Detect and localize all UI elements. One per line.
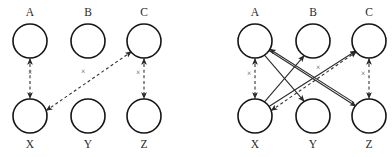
edge-C-Z: × xyxy=(136,59,144,99)
node-Y[interactable] xyxy=(296,99,330,133)
right-graph-panel: × × × A B C X Y Z xyxy=(196,0,392,157)
edge-C-Z: × xyxy=(361,59,369,99)
node-label-B: B xyxy=(84,6,92,18)
edge-cross-C-Z: × xyxy=(361,69,365,78)
node-label-A: A xyxy=(26,6,35,18)
edge-cross-A-X: × xyxy=(247,69,251,78)
node-label-C: C xyxy=(140,6,148,18)
node-label-X: X xyxy=(26,138,35,150)
node-Y[interactable] xyxy=(71,99,105,133)
node-X[interactable] xyxy=(238,99,272,133)
edge-cross-X-C: × xyxy=(316,63,320,72)
node-label-Z: Z xyxy=(140,138,147,150)
node-A[interactable] xyxy=(13,24,47,58)
node-X[interactable] xyxy=(13,99,47,133)
node-label-B: B xyxy=(309,6,317,18)
node-C[interactable] xyxy=(352,24,386,58)
edge-A-X: × xyxy=(247,59,255,99)
node-label-X: X xyxy=(251,138,260,150)
node-A[interactable] xyxy=(238,24,272,58)
node-B[interactable] xyxy=(71,24,105,58)
edge-cross-X-C: × xyxy=(81,67,85,76)
edge-cross-C-Z: × xyxy=(136,68,140,77)
node-label-Y: Y xyxy=(84,138,93,150)
edge-cross-A-X: × xyxy=(28,68,32,77)
left-graph-panel: × × × A B C X Y Z xyxy=(0,0,196,157)
figure-container: × × × A B C X Y Z xyxy=(0,0,392,157)
node-Z[interactable] xyxy=(352,99,386,133)
edge-A-X: × xyxy=(28,59,32,99)
node-label-A: A xyxy=(251,6,260,18)
node-label-Y: Y xyxy=(309,138,318,150)
node-Z[interactable] xyxy=(127,99,161,133)
node-C[interactable] xyxy=(127,24,161,58)
node-B[interactable] xyxy=(296,24,330,58)
node-label-C: C xyxy=(365,6,373,18)
node-label-Z: Z xyxy=(365,138,372,150)
